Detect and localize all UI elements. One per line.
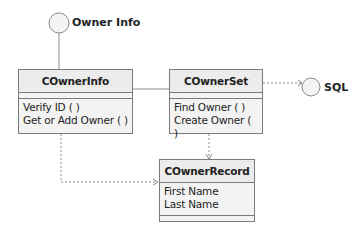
class-name: COwnerRecord (160, 160, 254, 183)
class-cownerinfo[interactable]: COwnerInfo Verify ID ( ) Get or Add Owne… (18, 69, 133, 134)
operation: Create Owner ( ) (174, 114, 258, 140)
class-cownerrecord[interactable]: COwnerRecord First Name Last Name (159, 159, 255, 222)
operation: Find Owner ( ) (174, 101, 258, 114)
class-name: COwnerInfo (19, 70, 132, 93)
sql-label: SQL (324, 81, 348, 94)
attributes-compartment: First Name Last Name (160, 183, 254, 213)
operation: Get or Add Owner ( ) (23, 114, 128, 127)
info-record-dependency-line (61, 134, 158, 182)
attribute: First Name (164, 185, 250, 198)
class-name: COwnerSet (170, 70, 262, 93)
owner-info-label: Owner Info (72, 16, 140, 29)
operations-compartment: Find Owner ( ) Create Owner ( ) (170, 99, 262, 142)
sql-interface-icon (302, 78, 320, 96)
operation: Verify ID ( ) (23, 101, 128, 114)
class-cownerset[interactable]: COwnerSet Find Owner ( ) Create Owner ( … (169, 69, 263, 134)
attribute: Last Name (164, 198, 250, 211)
operations-compartment (160, 215, 254, 221)
owner-info-interface-icon (49, 13, 69, 33)
operations-compartment: Verify ID ( ) Get or Add Owner ( ) (19, 99, 132, 129)
